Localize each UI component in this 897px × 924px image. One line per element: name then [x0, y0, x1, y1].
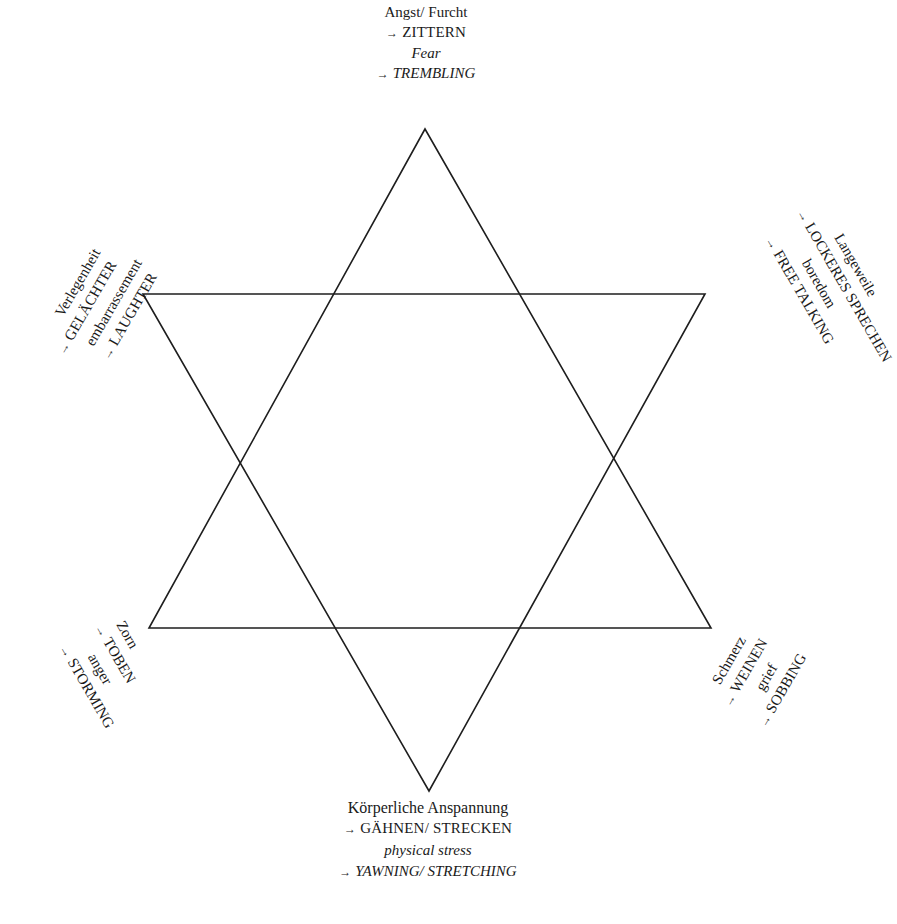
arrow-icon: → — [377, 67, 389, 81]
vertex-label-top: Angst/ Furcht →ZITTERN Fear →TREMBLING — [377, 2, 476, 84]
arrow-icon: → — [763, 234, 781, 251]
downward-triangle — [143, 294, 705, 791]
arrow-icon: → — [339, 865, 351, 879]
en-response: YAWNING/ STRETCHING — [355, 863, 516, 879]
en-response: TREMBLING — [393, 65, 476, 81]
upward-triangle — [149, 129, 711, 628]
arrow-icon: → — [99, 345, 117, 362]
en-emotion: physical stress — [339, 840, 516, 861]
de-response: ZITTERN — [402, 24, 466, 40]
de-response: GÄHNEN/ STRECKEN — [360, 820, 512, 836]
arrow-icon: → — [386, 26, 398, 40]
de-emotion: Angst/ Furcht — [377, 2, 476, 22]
arrow-icon: → — [55, 340, 73, 357]
en-emotion: Fear — [377, 43, 476, 63]
de-emotion: Körperliche Anspannung — [339, 797, 516, 818]
vertex-label-bottom: Körperliche Anspannung →GÄHNEN/ STRECKEN… — [339, 797, 516, 883]
arrow-icon: → — [344, 822, 356, 836]
